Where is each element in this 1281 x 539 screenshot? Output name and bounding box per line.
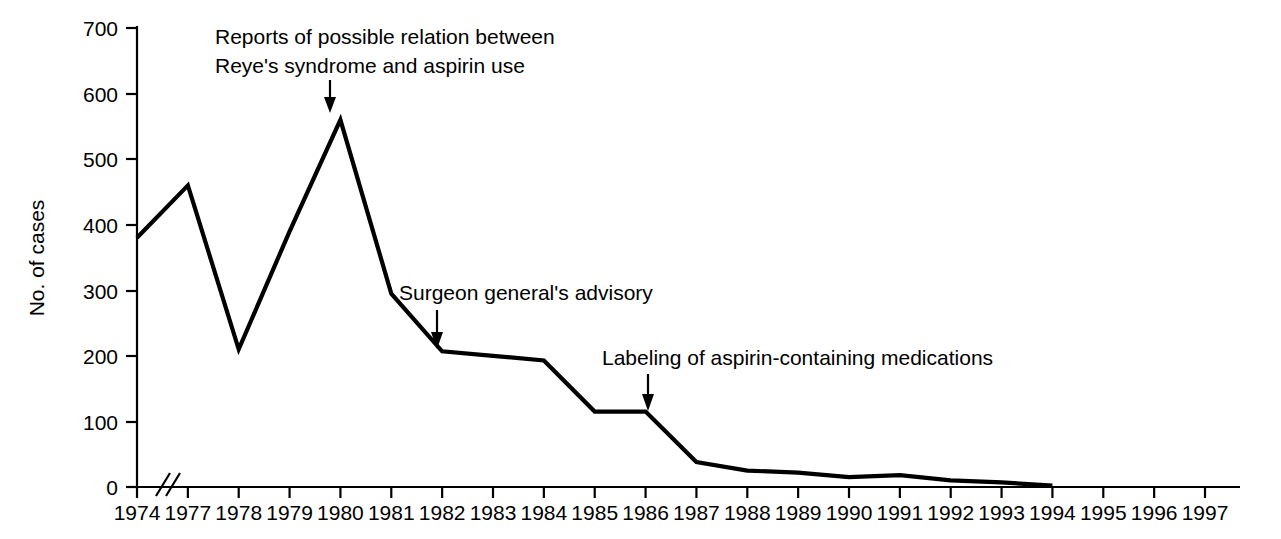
- reye-syndrome-chart-figure: 700 600 500 400 300 200 100 0 No. of cas…: [0, 0, 1281, 539]
- x-tick-label-1978: 1978: [215, 501, 262, 524]
- x-tick-labels: 1974197719781979198019811982198319841985…: [114, 501, 1229, 524]
- x-tick-label-1986: 1986: [622, 501, 669, 524]
- y-tick-labels: 700 600 500 400 300 200 100 0: [83, 17, 118, 499]
- y-tick-marks: [126, 28, 137, 487]
- x-tick-label-1989: 1989: [775, 501, 822, 524]
- y-tick-label-0: 0: [106, 476, 118, 499]
- x-tick-label-1981: 1981: [368, 501, 415, 524]
- y-tick-label-600: 600: [83, 83, 118, 106]
- x-tick-label-1994: 1994: [1029, 501, 1076, 524]
- x-tick-label-1993: 1993: [978, 501, 1025, 524]
- y-axis-title: No. of cases: [25, 200, 48, 317]
- y-tick-label-100: 100: [83, 411, 118, 434]
- x-tick-marks: [137, 487, 1205, 498]
- x-tick-label-1979: 1979: [266, 501, 313, 524]
- x-tick-label-1985: 1985: [571, 501, 618, 524]
- x-tick-label-1983: 1983: [470, 501, 517, 524]
- reports-annotation-line2: Reye's syndrome and aspirin use: [215, 54, 525, 77]
- y-tick-label-200: 200: [83, 345, 118, 368]
- chart-canvas: 700 600 500 400 300 200 100 0 No. of cas…: [0, 0, 1281, 539]
- x-tick-label-1996: 1996: [1131, 501, 1178, 524]
- labeling-annotation: Labeling of aspirin-containing medicatio…: [602, 346, 993, 411]
- x-tick-label-1995: 1995: [1080, 501, 1127, 524]
- x-tick-label-1982: 1982: [419, 501, 466, 524]
- surgeon-general-annotation-text: Surgeon general's advisory: [399, 281, 653, 304]
- x-tick-label-1987: 1987: [673, 501, 720, 524]
- y-tick-label-300: 300: [83, 280, 118, 303]
- reports-annotation-line1: Reports of possible relation between: [215, 25, 555, 48]
- reports-annotation-arrow-icon: [324, 80, 336, 113]
- x-tick-label-1988: 1988: [724, 501, 771, 524]
- y-tick-label-400: 400: [83, 214, 118, 237]
- reports-annotation: Reports of possible relation between Rey…: [215, 25, 555, 113]
- x-tick-label-1977: 1977: [164, 501, 211, 524]
- y-tick-label-700: 700: [83, 17, 118, 40]
- x-tick-label-1984: 1984: [520, 501, 567, 524]
- x-tick-label-1974: 1974: [114, 501, 161, 524]
- x-tick-label-1992: 1992: [927, 501, 974, 524]
- labeling-annotation-text: Labeling of aspirin-containing medicatio…: [602, 346, 993, 369]
- x-axis-break-icon: [156, 473, 180, 496]
- labeling-annotation-arrow-icon: [642, 374, 654, 411]
- surgeon-general-annotation: Surgeon general's advisory: [399, 281, 653, 349]
- x-tick-label-1990: 1990: [826, 501, 873, 524]
- x-tick-label-1997: 1997: [1182, 501, 1229, 524]
- x-tick-label-1991: 1991: [876, 501, 923, 524]
- y-tick-label-500: 500: [83, 148, 118, 171]
- x-tick-label-1980: 1980: [317, 501, 364, 524]
